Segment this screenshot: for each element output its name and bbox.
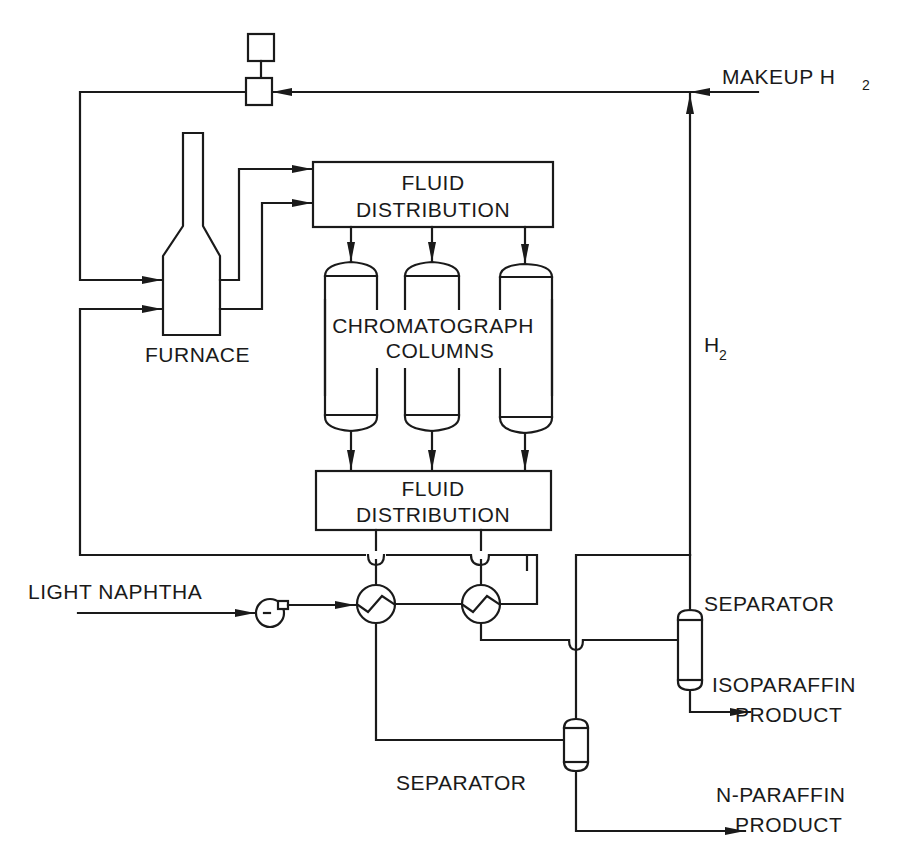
chromatograph-label: CHROMATOGRAPH <box>332 314 534 337</box>
compressor-box <box>246 78 272 105</box>
svg-text:SEPARATOR: SEPARATOR <box>704 592 835 615</box>
process-flow-diagram: FURNACE FLUID DISTRIBUTION <box>0 0 900 866</box>
svg-text:FLUID: FLUID <box>401 477 464 500</box>
svg-text:2: 2 <box>862 77 870 93</box>
furnace-outlet-1 <box>220 169 312 280</box>
controller-box <box>248 34 274 61</box>
furnace: FURNACE <box>145 133 250 366</box>
chromatograph-columns: CHROMATOGRAPH COLUMNS <box>325 262 552 433</box>
svg-text:DISTRIBUTION: DISTRIBUTION <box>356 198 510 221</box>
compressor-unit <box>246 34 274 105</box>
h2-label: H <box>704 333 720 356</box>
svg-text:PRODUCT: PRODUCT <box>735 813 842 836</box>
makeup-h2-label: MAKEUP H <box>722 65 835 88</box>
hx2-line-a <box>481 623 569 640</box>
heat-exchanger-2 <box>462 585 500 623</box>
light-naphtha-label: LIGHT NAPHTHA <box>28 580 202 603</box>
furnace-label: FURNACE <box>145 343 250 366</box>
fluid-distribution-top: FLUID DISTRIBUTION <box>313 162 553 227</box>
svg-text:SEPARATOR: SEPARATOR <box>396 771 527 794</box>
nparaffin-label: N-PARAFFIN <box>716 783 845 806</box>
pump-icon <box>256 599 288 627</box>
svg-text:COLUMNS: COLUMNS <box>386 339 495 362</box>
isoparaffin-label: ISOPARAFFIN <box>712 673 856 696</box>
heat-exchanger-1 <box>357 585 395 623</box>
svg-text:FLUID: FLUID <box>401 171 464 194</box>
furnace-outlet-2 <box>220 203 312 309</box>
svg-text:2: 2 <box>719 347 727 363</box>
separator-lower: SEPARATOR <box>396 719 588 794</box>
lower-sep-vapor-line <box>576 555 690 720</box>
svg-text:PRODUCT: PRODUCT <box>735 703 842 726</box>
svg-text:DISTRIBUTION: DISTRIBUTION <box>356 503 510 526</box>
fluid-distribution-bottom: FLUID DISTRIBUTION <box>316 471 551 530</box>
